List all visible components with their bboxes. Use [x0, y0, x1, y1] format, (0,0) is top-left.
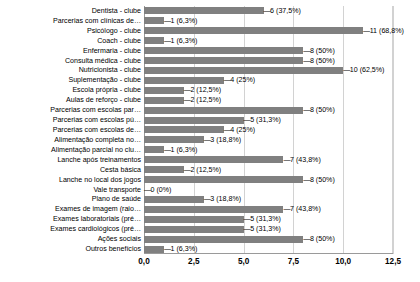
- category-label: Parcerias com escolas de…: [53, 126, 141, 134]
- category-label: Vale transporte: [93, 186, 141, 194]
- bar-row: Suplementação - clube—4 (25%): [144, 75, 393, 85]
- bar-row: Exames cardiológicos (pré…—5 (31,3%): [144, 224, 393, 234]
- bar-row: Parcerias com escolas par…—8 (50%): [144, 105, 393, 115]
- bar-data-label: —1 (6,3%): [164, 245, 197, 253]
- bar-data-label: —4 (25%): [224, 76, 255, 84]
- horizontal-bar-chart: Dentista - clube—6 (37,5%)Parcerias com …: [0, 0, 420, 282]
- bar: [144, 37, 164, 44]
- bar-row: Alimentação parcial no clu…—1 (6,3%): [144, 145, 393, 155]
- bar-row: Exames de imagem (raio…—7 (43,8%): [144, 204, 393, 214]
- bar: [144, 87, 184, 94]
- bar: [144, 176, 303, 183]
- bar-data-label: —10 (62,5%): [343, 66, 384, 74]
- gridline-12,5: [393, 6, 394, 254]
- category-label: Consulta médica - clube: [65, 57, 141, 65]
- x-tick-label: 10,0: [335, 256, 351, 268]
- bar-data-label: —8 (50%): [303, 235, 334, 243]
- bar-data-label: —7 (43,8%): [283, 156, 320, 164]
- bar: [144, 77, 224, 84]
- bar-data-label: —8 (50%): [303, 106, 334, 114]
- bar-data-label: —7 (43,8%): [283, 205, 320, 213]
- bar-row: Escola própria - clube—2 (12,5%): [144, 85, 393, 95]
- bar: [144, 216, 244, 223]
- category-label: Aulas de reforço - clube: [66, 96, 141, 104]
- bar-row: Parcerias com clínicas de…—1 (6,3%): [144, 16, 393, 26]
- bar-data-label: —1 (6,3%): [164, 17, 197, 25]
- bar: [144, 146, 164, 153]
- bar-data-label: —2 (12,5%): [184, 166, 221, 174]
- bar-data-label: —8 (50%): [303, 176, 334, 184]
- x-tick-label: 12,5: [385, 256, 401, 268]
- category-label: Alimentação parcial no clu…: [51, 146, 141, 154]
- bar-row: Enfermaria - clube—8 (50%): [144, 46, 393, 56]
- x-tick-label: 5,0: [238, 256, 249, 268]
- bar: [144, 206, 283, 213]
- bar: [144, 117, 244, 124]
- bar: [144, 236, 303, 243]
- bar-data-label: —5 (31,3%): [244, 225, 281, 233]
- category-label: Parcerias com clínicas de…: [53, 17, 141, 25]
- bar-row: Parcerias com escolas pú…—5 (31,3%): [144, 115, 393, 125]
- x-tick-label: 2,5: [188, 256, 199, 268]
- category-label: Outros benefícios: [85, 245, 141, 253]
- bar-data-label: —5 (31,3%): [244, 116, 281, 124]
- bar-row: Dentista - clube—6 (37,5%): [144, 6, 393, 16]
- category-label: Exames de imagem (raio…: [55, 205, 141, 213]
- bar: [144, 246, 164, 253]
- bar: [144, 126, 224, 133]
- bar: [144, 156, 283, 163]
- category-label: Psicólogo - clube: [87, 27, 141, 35]
- category-label: Exames cardiológicos (pré…: [50, 225, 141, 233]
- bar-row: Consulta médica - clube—8 (50%): [144, 56, 393, 66]
- bar-row: Aulas de reforço - clube—2 (12,5%): [144, 95, 393, 105]
- bar-row: Outros benefícios—1 (6,3%): [144, 244, 393, 254]
- bar-data-label: —11 (68,8%): [363, 27, 404, 35]
- category-label: Suplementação - clube: [68, 76, 141, 84]
- category-label: Parcerias com escolas pú…: [53, 116, 141, 124]
- category-label: Nutricionista - clube: [79, 66, 141, 74]
- category-label: Ações sociais: [98, 235, 141, 243]
- bar: [144, 97, 184, 104]
- category-label: Alimentação completa no…: [54, 136, 141, 144]
- category-label: Dentista - clube: [92, 7, 141, 15]
- bar-data-label: —8 (50%): [303, 47, 334, 55]
- category-label: Lanche no local dos jogos: [59, 176, 141, 184]
- bar-data-label: —3 (18,8%): [204, 195, 241, 203]
- category-label: Escola própria - clube: [72, 86, 141, 94]
- category-label: Exames laboratoriais (pré…: [53, 215, 141, 223]
- bar: [144, 166, 184, 173]
- plot-area: Dentista - clube—6 (37,5%)Parcerias com …: [144, 6, 393, 254]
- bar-row: Parcerias com escolas de…—4 (25%): [144, 125, 393, 135]
- bar-row: Nutricionista - clube—10 (62,5%): [144, 66, 393, 76]
- bar-row: Lanche após treinamentos—7 (43,8%): [144, 155, 393, 165]
- bar: [144, 67, 343, 74]
- bar-row: Psicólogo - clube—11 (68,8%): [144, 26, 393, 36]
- bar-data-label: —0 (0%): [144, 186, 172, 194]
- category-label: Parcerias com escolas par…: [50, 106, 141, 114]
- bar-row: Exames laboratoriais (pré…—5 (31,3%): [144, 214, 393, 224]
- bar-data-label: —5 (31,3%): [244, 215, 281, 223]
- bar-row: Vale transporte—0 (0%): [144, 185, 393, 195]
- bar-row: Alimentação completa no…—3 (18,8%): [144, 135, 393, 145]
- bar-data-label: —3 (18,8%): [204, 136, 241, 144]
- bar: [144, 107, 303, 114]
- bar-data-label: —8 (50%): [303, 57, 334, 65]
- bar: [144, 57, 303, 64]
- x-tick-label: 7,5: [288, 256, 299, 268]
- bar-row: Cesta básica—2 (12,5%): [144, 165, 393, 175]
- bar-row: Plano de saúde—3 (18,8%): [144, 194, 393, 204]
- bar-row: Lanche no local dos jogos—8 (50%): [144, 175, 393, 185]
- bar-data-label: —2 (12,5%): [184, 86, 221, 94]
- bar-row: Ações sociais—8 (50%): [144, 234, 393, 244]
- bar: [144, 7, 264, 14]
- bar: [144, 136, 204, 143]
- bar-data-label: —2 (12,5%): [184, 96, 221, 104]
- bar: [144, 226, 244, 233]
- x-axis-tick-labels: 0,02,55,07,510,012,5: [144, 256, 393, 270]
- category-label: Cesta básica: [100, 166, 141, 174]
- bar: [144, 47, 303, 54]
- category-label: Plano de saúde: [92, 195, 141, 203]
- category-label: Coach - clube: [97, 37, 141, 45]
- x-tick-label: 0,0: [138, 256, 149, 268]
- bar-data-label: —1 (6,3%): [164, 37, 197, 45]
